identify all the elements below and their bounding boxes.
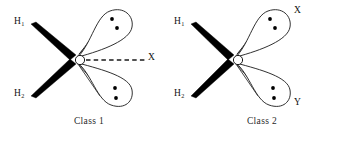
lone-pair-dot-upper-a	[110, 17, 114, 21]
bond-label-h1: H1	[14, 17, 24, 27]
lone-pair-lobe-lower	[236, 63, 290, 106]
lone-pair-dot-lower-b	[114, 96, 118, 100]
lobe-outline-upper	[236, 10, 290, 57]
lobe-outline-upper	[78, 10, 132, 57]
lone-pair-dot-lower-a	[271, 86, 275, 90]
chemistry-figure: H1 H2 X Class 1	[0, 0, 339, 142]
lobe-outline-lower	[236, 63, 290, 106]
lone-pair-dot-lower-b	[272, 96, 276, 100]
central-atom-circle	[233, 55, 242, 64]
caption-class-2: Class 2	[169, 116, 339, 126]
diagram-class-1: H1 H2 X Class 1	[0, 0, 170, 142]
caption-class-1: Class 1	[0, 116, 174, 126]
lobe-outline-lower	[78, 63, 132, 106]
lone-pair-label-y: Y	[294, 98, 301, 108]
lone-pair-lobe-lower	[78, 63, 132, 106]
lone-pair-dot-upper-b	[273, 26, 277, 30]
bond-label-x: X	[148, 53, 155, 63]
central-atom-circle	[75, 55, 84, 64]
wedge-bond-h2	[31, 59, 76, 98]
wedge-bond-h2	[191, 59, 234, 98]
lone-pair-label-x: X	[294, 6, 301, 16]
wedge-bond-h1	[31, 22, 76, 60]
bond-label-h2: H2	[174, 89, 184, 99]
bond-label-h2: H2	[14, 89, 24, 99]
lone-pair-lobe-upper	[78, 10, 132, 57]
class-2-structure	[169, 0, 339, 118]
bond-label-h1: H1	[174, 17, 184, 27]
lone-pair-dot-lower-a	[113, 86, 117, 90]
class-1-structure	[0, 0, 170, 118]
lone-pair-dot-upper-b	[115, 26, 119, 30]
diagram-class-2: H1 H2 X Y Class 2	[169, 0, 339, 142]
lone-pair-dot-upper-a	[268, 17, 272, 21]
lone-pair-lobe-upper	[236, 10, 290, 57]
wedge-bond-h1	[191, 22, 234, 60]
